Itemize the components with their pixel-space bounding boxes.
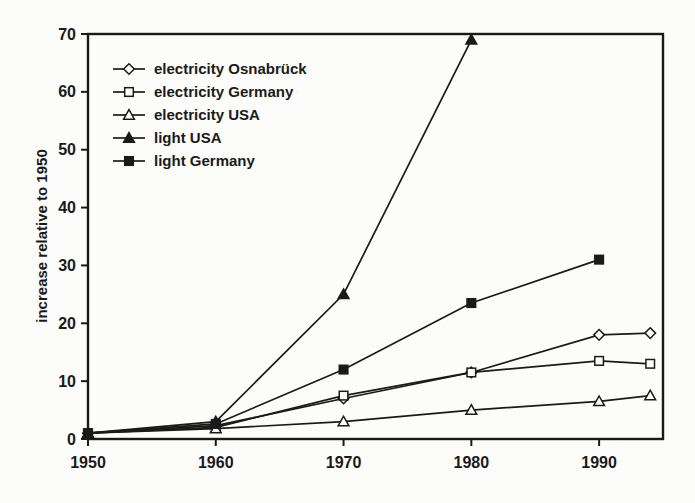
y-tick-label: 20 (58, 315, 76, 332)
triangle-filled-icon (112, 130, 146, 146)
square-open-marker-icon (646, 359, 655, 368)
legend-item: electricity USA (112, 103, 307, 126)
legend-label: electricity USA (154, 106, 260, 123)
square-open-marker-icon (467, 368, 476, 377)
square-filled-marker-icon (84, 429, 93, 438)
diamond-open-marker-icon (645, 328, 656, 339)
square-filled-marker-icon (339, 365, 348, 374)
square-filled-marker-icon (595, 255, 604, 264)
square-open-marker-icon (339, 391, 348, 400)
legend-item: electricity Osnabrück (112, 57, 307, 80)
legend-item: electricity Germany (112, 80, 307, 103)
y-tick-label: 10 (58, 373, 76, 390)
square-open-icon (112, 84, 146, 100)
x-tick-label: 1960 (198, 454, 234, 471)
diamond-open-icon (112, 61, 146, 77)
legend-label: electricity Osnabrück (154, 60, 307, 77)
diamond-open-marker-icon (594, 330, 605, 341)
square-open-marker-icon (125, 87, 134, 96)
diamond-open-marker-icon (124, 63, 135, 74)
square-filled-marker-icon (467, 299, 476, 308)
square-open-marker-icon (595, 357, 604, 366)
legend: electricity Osnabrück electricity German… (112, 57, 307, 172)
x-tick-label: 1990 (581, 454, 617, 471)
x-tick-label: 1970 (326, 454, 362, 471)
y-tick-label: 40 (58, 199, 76, 216)
triangle-filled-marker-icon (338, 289, 349, 299)
triangle-open-icon (112, 107, 146, 123)
square-filled-marker-icon (211, 420, 220, 429)
y-tick-label: 0 (67, 431, 76, 448)
figure: 01020304050607019501960197019801990 incr… (0, 0, 695, 503)
y-tick-label: 50 (58, 141, 76, 158)
legend-item: light Germany (112, 149, 307, 172)
y-tick-label: 60 (58, 83, 76, 100)
legend-label: light USA (154, 129, 222, 146)
y-tick-label: 70 (58, 26, 76, 43)
legend-item: light USA (112, 126, 307, 149)
legend-label: electricity Germany (154, 83, 293, 100)
triangle-open-marker-icon (645, 390, 656, 400)
series-line-electricity-osnabr-ck (88, 333, 650, 433)
y-tick-label: 30 (58, 257, 76, 274)
square-filled-marker-icon (125, 156, 134, 165)
x-tick-label: 1980 (454, 454, 490, 471)
y-axis-title: increase relative to 1950 (33, 149, 50, 322)
series-line-electricity-germany (88, 361, 650, 433)
legend-label: light Germany (154, 152, 255, 169)
chart-svg: 01020304050607019501960197019801990 (0, 0, 695, 503)
triangle-filled-marker-icon (466, 34, 477, 44)
x-tick-label: 1950 (70, 454, 106, 471)
square-filled-icon (112, 153, 146, 169)
